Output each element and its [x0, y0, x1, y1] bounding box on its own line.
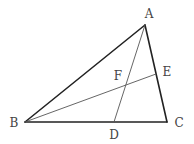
label-E: E	[163, 65, 172, 79]
label-F: F	[114, 69, 122, 83]
segment-AB	[25, 25, 145, 122]
label-B: B	[10, 116, 19, 130]
label-D: D	[109, 128, 119, 142]
label-A: A	[144, 7, 154, 21]
segment-BE	[25, 74, 156, 122]
segments-group	[25, 25, 167, 122]
label-C: C	[174, 116, 183, 130]
triangle-diagram: A B C D E F	[0, 0, 194, 144]
